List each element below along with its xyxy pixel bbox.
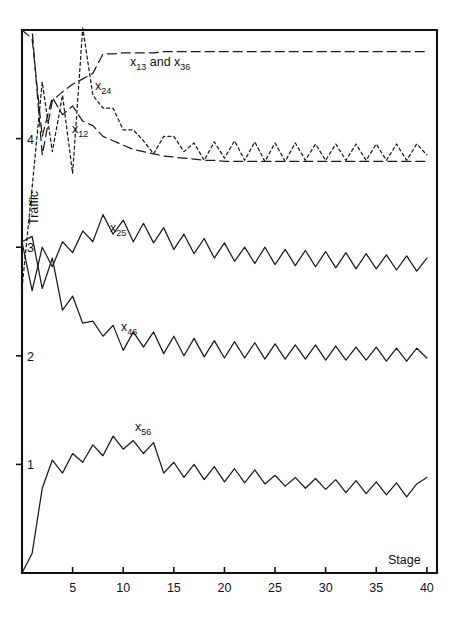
x-tick-label: 10 — [116, 581, 130, 595]
chart-background — [0, 0, 461, 624]
y-tick-label: 4 — [27, 133, 34, 147]
x-tick-label: 5 — [69, 581, 76, 595]
x-tick-label: 35 — [369, 581, 383, 595]
x-tick-label: 40 — [420, 581, 434, 595]
x-tick-label: 15 — [167, 581, 181, 595]
y-tick-label: 1 — [27, 458, 34, 472]
y-tick-label: 2 — [27, 350, 34, 364]
y-axis-title: Traffic — [27, 191, 41, 225]
x-tick-label: 25 — [268, 581, 282, 595]
traffic-vs-stage-chart: 1234 510152025303540 Traffic Stage x13 a… — [0, 0, 461, 624]
x-tick-label: 20 — [217, 581, 231, 595]
figure-container: 1234 510152025303540 Traffic Stage x13 a… — [0, 0, 461, 624]
x-tick-label: 30 — [319, 581, 333, 595]
x-axis-title: Stage — [388, 553, 421, 567]
